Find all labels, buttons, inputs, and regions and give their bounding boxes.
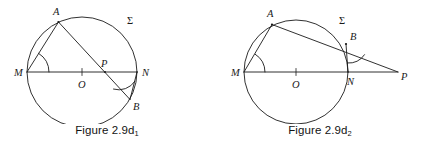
figure-2-9d1-caption: Figure 2.9d1 [0,124,214,136]
figure-2-9d1-block: Σ A M N B P O Figure 2.9d1 [0,0,214,148]
label-point-N: N [141,67,150,78]
segment-chord-MA [27,22,59,72]
label-point-P: P [100,58,108,69]
point-marker-A [57,21,59,23]
label-point-M: M [13,67,24,78]
figure-panel: Σ A M N B P O Figure 2.9d1 [0,0,427,148]
label-sigma: Σ [339,15,345,26]
figure-2-9d1-drawing: Σ A M N B P O [0,0,214,124]
point-marker-P [104,71,106,73]
angle-arc-AMN [39,53,49,72]
caption-subscript: 1 [135,129,139,138]
label-point-B: B [350,31,357,42]
label-point-N: N [346,76,355,87]
point-marker-B [345,43,347,45]
figure-2-9d2-drawing: Σ A M N B P O [213,0,427,124]
label-sigma: Σ [127,15,133,26]
segment-chord-MA [244,25,272,73]
label-point-A: A [266,8,274,19]
label-point-B: B [133,101,140,112]
point-marker-A [271,23,273,25]
caption-subscript: 2 [348,129,352,138]
label-center-O: O [78,79,86,90]
caption-text: Figure 2.9d [75,124,134,136]
label-point-P: P [400,71,408,82]
caption-text: Figure 2.9d [288,124,347,136]
label-point-A: A [52,6,60,17]
angle-arc-AMN [255,54,265,72]
label-center-O: O [292,79,300,90]
segment-line-A-through-B-to-P [272,25,398,73]
figure-2-9d2-block: Σ A M N B P O Figure 2.9d2 [213,0,427,148]
label-point-M: M [230,67,241,78]
segment-chord-AB [59,22,131,100]
figure-2-9d2-caption: Figure 2.9d2 [213,124,427,136]
